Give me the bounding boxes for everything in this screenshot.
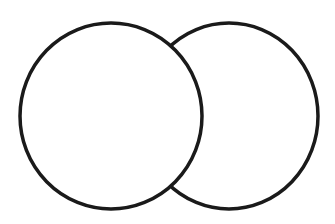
overlapping-circles-diagram [0, 0, 335, 224]
left-circle [20, 23, 202, 209]
diagram-canvas [0, 0, 335, 224]
